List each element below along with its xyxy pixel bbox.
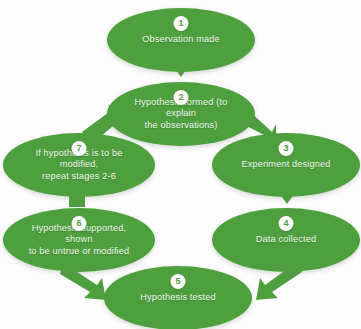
stage-3-experiment-designed[interactable]: 3 Experiment designed [212, 133, 360, 197]
stage-5-hypothesis-tested[interactable]: 5 Hypothesis tested [104, 266, 252, 329]
stage-5-label: Hypothesis tested [126, 292, 230, 304]
stage-7-repeat-stages[interactable]: 7 If hypothesis is to be modified, repea… [3, 133, 155, 197]
stage-3-label: Experiment designed [227, 159, 344, 171]
stage-1-observation-made[interactable]: 1 Observation made [107, 8, 255, 72]
stage-6-hypothesis-supported[interactable]: 6 Hypothesis supported, shown to be untr… [3, 208, 155, 272]
stage-2-badge: 2 [174, 90, 189, 105]
stage-2-hypothesis-formed[interactable]: 2 Hypothesis formed (to explain the obse… [107, 82, 255, 146]
stage-3-badge: 3 [279, 141, 294, 156]
scientific-method-diagram: 1 Observation made 2 Hypothesis formed (… [0, 0, 361, 329]
stage-4-data-collected[interactable]: 4 Data collected [212, 208, 360, 272]
stage-1-badge: 1 [174, 16, 189, 31]
stage-7-badge: 7 [72, 141, 87, 156]
stage-4-label: Data collected [242, 234, 330, 246]
stage-6-badge: 6 [72, 216, 87, 231]
stage-5-badge: 5 [171, 274, 186, 289]
stage-4-badge: 4 [279, 216, 294, 231]
stage-1-label: Observation made [128, 34, 233, 46]
